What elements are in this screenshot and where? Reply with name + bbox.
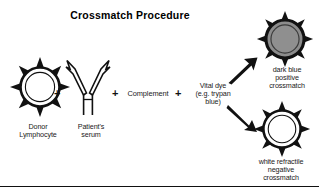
negative-crossmatch-label: white refractile negative crossmatch: [243, 158, 319, 181]
spiked-cell-filled-icon-positive: [256, 10, 314, 68]
arrow-up-right-icon: [226, 57, 260, 85]
page-title: Crossmatch Procedure: [0, 10, 260, 21]
plus-sign-3: +: [175, 88, 181, 99]
plus-sign-1: +: [54, 88, 60, 99]
spiked-cell-icon-negative: [253, 100, 311, 158]
spiked-cell-icon-donor: [8, 55, 72, 119]
vital-dye-label: Vital dye (e.g. trypan blue): [185, 82, 241, 105]
plus-sign-2: +: [112, 88, 118, 99]
complement-label: Complement: [122, 90, 174, 98]
crossmatch-procedure-figure: Crossmatch Procedure Donor Lymphocyte +: [0, 0, 319, 193]
positive-crossmatch-label: dark blue positive crossmatch: [256, 66, 318, 89]
footer-divider: [0, 186, 319, 187]
patients-serum-label: Patient's serum: [62, 123, 120, 139]
antibody-y-icon: [64, 55, 112, 117]
